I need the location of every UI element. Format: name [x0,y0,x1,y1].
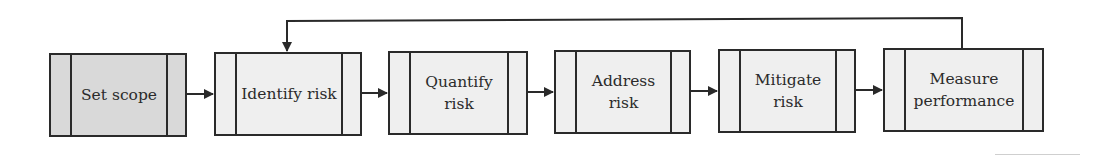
step-label: Identify risk [237,54,341,134]
step-mitigate-risk: Mitigaterisk [718,49,856,133]
step-text-line1: Mitigate [755,69,822,91]
step-text-line2: performance [914,90,1015,112]
feedback-arrow [287,18,962,51]
scan-artifact-line [995,154,1080,155]
step-label: Addressrisk [577,52,670,132]
step-text-line1: Quantify [425,71,493,93]
right-divider [1022,50,1024,130]
step-text-line1: Address [592,70,656,92]
right-divider [341,54,343,134]
step-text: Identify risk [241,83,337,105]
step-text-line2: risk [425,93,493,115]
step-measure-performance: Measureperformance [883,48,1044,132]
step-text: Set scope [81,84,157,106]
step-label: Measureperformance [906,50,1022,130]
step-quantify-risk: Quantifyrisk [388,51,528,135]
step-text-line2: risk [755,91,822,113]
step-address-risk: Addressrisk [554,50,691,134]
right-divider [670,52,672,132]
step-text-line1: Measure [914,68,1015,90]
step-text-line2: risk [592,92,656,114]
step-set-scope: Set scope [49,53,187,137]
right-divider [507,53,509,133]
right-divider [835,51,837,131]
step-identify-risk: Identify risk [214,52,362,136]
step-label: Set scope [72,55,166,135]
right-divider [166,55,168,135]
step-label: Mitigaterisk [741,51,835,131]
step-label: Quantifyrisk [411,53,507,133]
